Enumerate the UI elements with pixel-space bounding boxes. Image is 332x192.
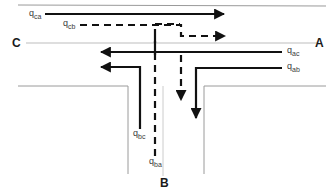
major-road-north-edge [18,5,326,6]
flow-arrow-qba [155,24,180,156]
junction-diagram-svg [0,0,332,192]
flow-path-qbc [101,67,140,129]
flow-label-qbc: qbc [133,129,145,140]
flow-label-qab: qab [287,62,300,73]
flow-arrow-qab [196,68,282,118]
diagram-canvas: C A B qca qcb qac qab qbc qba [0,0,332,192]
flow-label-qbc-sub: bc [138,133,145,140]
flow-label-qca-sub: ca [34,13,41,20]
flow-label-qba: qba [149,157,162,168]
flow-label-qca: qca [29,9,41,20]
node-label-c: C [12,37,21,49]
road-centerlines [26,43,318,176]
flow-label-qba-sub: ba [154,161,162,168]
flow-path-qab [196,68,282,118]
road-edges [18,5,326,174]
node-label-b: B [160,177,169,189]
flow-label-qab-sub: ab [292,66,300,73]
flow-label-qac-sub: ac [292,50,299,57]
flow-label-qcb: qcb [63,19,75,30]
flow-path-qcb [80,25,225,55]
flow-path-qba [155,24,181,156]
flow-arrow-qbc [101,67,140,129]
node-label-a: A [315,37,324,49]
flow-label-qcb-sub: cb [68,23,75,30]
flow-arrow-qcb [80,25,225,36]
flow-label-qac: qac [287,46,299,57]
